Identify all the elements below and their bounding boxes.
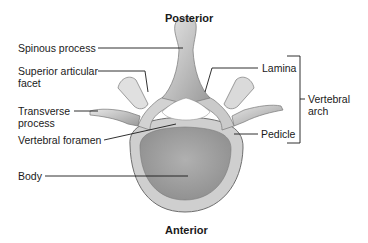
label-superior-articular-facet-2: facet: [18, 77, 41, 89]
vertebral-body: [130, 117, 243, 212]
label-vertebral-foramen: Vertebral foramen: [18, 134, 101, 146]
label-body: Body: [18, 170, 42, 182]
label-superior-articular-facet-1: Superior articular: [18, 65, 98, 77]
label-vertebral-arch-2: arch: [308, 105, 328, 117]
vertebra-illustration: [0, 0, 368, 243]
orientation-posterior: Posterior: [165, 12, 213, 24]
orientation-anterior: Anterior: [165, 224, 208, 236]
label-vertebral-arch-1: Vertebral: [308, 93, 350, 105]
label-transverse-process-1: Transverse: [18, 105, 70, 117]
label-transverse-process-2: process: [18, 117, 55, 129]
label-lamina: Lamina: [262, 62, 296, 74]
label-pedicle: Pedicle: [261, 128, 295, 140]
label-spinous-process: Spinous process: [18, 42, 96, 54]
vertebral-arch-shape: [90, 18, 283, 130]
